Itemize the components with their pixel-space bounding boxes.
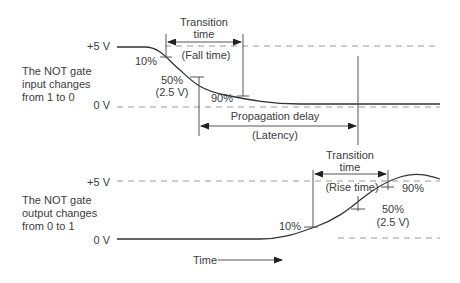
time-axis: Time <box>193 254 282 266</box>
output-description-line-2: output changes <box>22 207 98 219</box>
input-signal-panel: The NOT gate input changes from 1 to 0 +… <box>22 16 440 145</box>
propagation-delay-diagram: The NOT gate input changes from 1 to 0 +… <box>0 0 460 283</box>
output-transition-time-label-line-2: time <box>340 161 361 173</box>
propagation-delay-label: Propagation delay <box>231 110 320 122</box>
output-description-line-1: The NOT gate <box>22 194 92 206</box>
input-description-line-3: from 1 to 0 <box>22 91 75 103</box>
output-10pct-label: 10% <box>279 220 301 232</box>
latency-label: (Latency) <box>252 129 298 141</box>
transition-time-label-line-1: Transition <box>180 16 228 28</box>
output-low-level-label: 0 V <box>93 234 110 246</box>
input-low-level-label: 0 V <box>93 99 110 111</box>
input-10pct-label: 10% <box>135 55 157 67</box>
input-50pct-label: 50% <box>161 74 183 86</box>
input-high-level-label: +5 V <box>87 40 111 52</box>
output-description-line-3: from 0 to 1 <box>22 220 75 232</box>
output-transition-time-label-line-1: Transition <box>326 149 374 161</box>
input-90pct-label: 90% <box>211 92 233 104</box>
input-description-line-2: input changes <box>22 78 91 90</box>
transition-time-label-line-2: time <box>194 28 215 40</box>
input-50pct-voltage-label: (2.5 V) <box>155 86 188 98</box>
output-50pct-voltage-label: (2.5 V) <box>376 216 409 228</box>
output-high-level-label: +5 V <box>87 176 111 188</box>
input-description-line-1: The NOT gate <box>22 65 92 77</box>
fall-time-label: (Fall time) <box>182 49 231 61</box>
time-axis-label: Time <box>193 254 217 266</box>
output-50pct-label: 50% <box>382 203 404 215</box>
output-90pct-label: 90% <box>402 182 424 194</box>
output-signal-panel: The NOT gate output changes from 0 to 1 … <box>22 149 440 246</box>
rise-time-label: (Rise time) <box>325 181 378 193</box>
